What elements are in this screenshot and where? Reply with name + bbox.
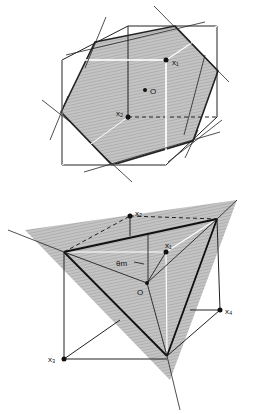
point-x1: [164, 250, 169, 255]
point-x2: [128, 214, 133, 219]
point-origin: [143, 88, 147, 92]
label-x1: x₁: [165, 241, 172, 250]
label-x2: x₂: [135, 209, 142, 218]
label-theta-m: θm: [116, 259, 127, 268]
top-figure: x₁ x₂ O: [42, 6, 229, 182]
label-x4: x₄: [225, 307, 232, 316]
point-x3: [62, 357, 67, 362]
label-origin: O: [137, 288, 143, 297]
point-x1: [164, 58, 169, 63]
point-origin: [145, 281, 149, 285]
point-x2: [126, 115, 131, 120]
diagram-canvas: x₁ x₂ O: [0, 0, 271, 414]
point-x4: [218, 308, 223, 313]
bottom-figure: x₂ x₁ x₃ x₄ O θm: [8, 200, 237, 410]
label-x3: x₃: [48, 355, 55, 364]
label-x2: x₂: [116, 109, 123, 118]
label-origin: O: [150, 87, 156, 96]
label-x1: x₁: [172, 58, 179, 67]
